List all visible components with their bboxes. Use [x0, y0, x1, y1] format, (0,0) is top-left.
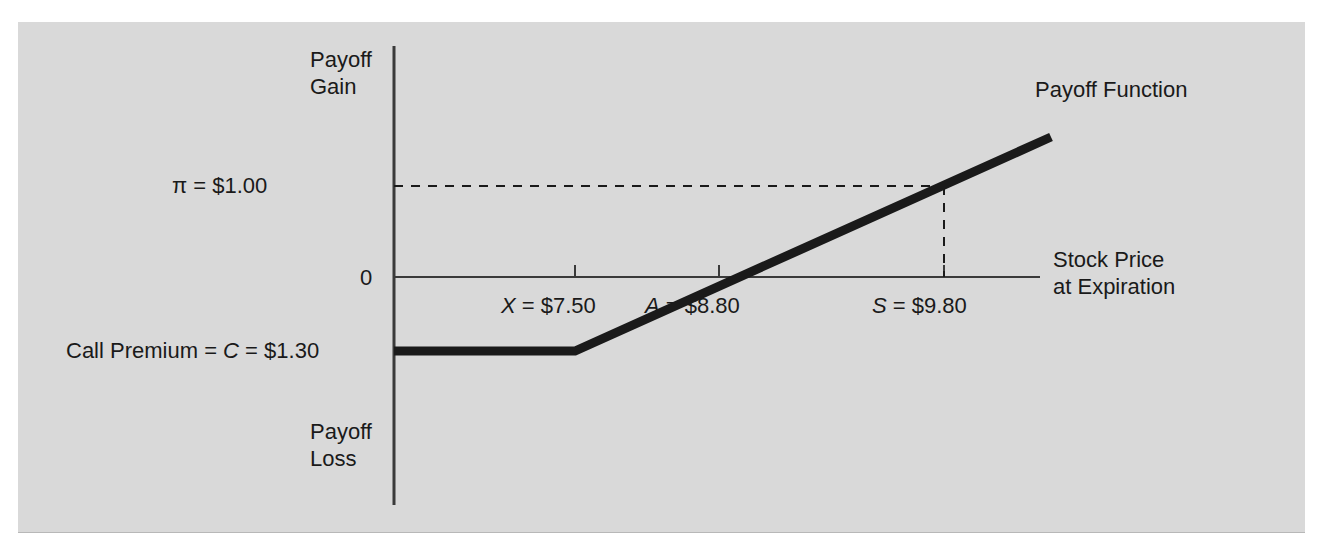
payoff-function-label: Payoff Function: [1035, 76, 1187, 103]
payoff-diagram-figure: Payoff Gain Payoff Loss 0 π = $1.00 Call…: [0, 0, 1320, 559]
tick-label-strike: X = $7.50: [501, 292, 596, 319]
zero-tick-label: 0: [360, 264, 372, 291]
profit-level-label: π = $1.00: [172, 172, 267, 199]
call-premium-label: Call Premium = C = $1.30: [66, 337, 319, 364]
tick-label-breakeven: A = $8.80: [645, 292, 740, 319]
tick-label-stock-price: S = $9.80: [872, 292, 967, 319]
x-axis-label: Stock Price at Expiration: [1053, 246, 1175, 300]
y-axis-top-label: Payoff Gain: [310, 46, 372, 100]
y-axis-bottom-label: Payoff Loss: [310, 418, 372, 472]
